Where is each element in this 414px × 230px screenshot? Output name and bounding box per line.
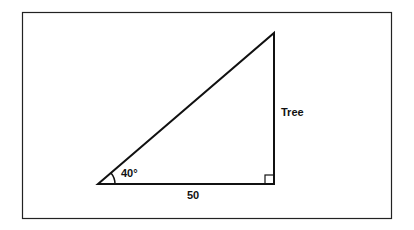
triangle [98,33,274,184]
angle-label: 40° [121,167,138,179]
frame-border [23,13,392,219]
base-label: 50 [187,189,199,201]
right-angle-marker [265,175,274,184]
height-label: Tree [281,106,304,118]
angle-arc [111,173,115,184]
diagram-canvas [0,0,414,230]
